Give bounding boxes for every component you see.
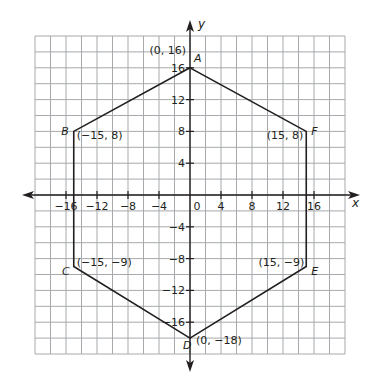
vertex-d-label: D	[183, 339, 191, 352]
vertex-f-coordinates: (15, 8)	[267, 129, 304, 142]
y-tick-label: −12	[162, 284, 185, 297]
x-tick-label: 0	[194, 200, 201, 213]
x-tick-label: −4	[151, 200, 167, 213]
x-axis-label: x	[351, 196, 360, 210]
y-axis-label: y	[197, 17, 206, 31]
vertex-f-label: F	[311, 125, 318, 138]
y-tick-label: 16	[171, 62, 185, 75]
x-tick-label: 12	[276, 200, 290, 213]
x-tick-label: 4	[218, 200, 225, 213]
vertex-c-coordinates: (−15, −9)	[77, 256, 132, 269]
y-tick-label: 12	[171, 94, 185, 107]
vertex-e-coordinates: (15, −9)	[258, 256, 304, 269]
axes	[22, 20, 360, 372]
x-tick-label: 8	[249, 200, 256, 213]
x-tick-label: −8	[120, 200, 136, 213]
coordinate-plane: −16−12−8−40481216 161284−4−8−12−16 A(0, …	[0, 0, 382, 389]
vertex-b-label: B	[61, 125, 69, 138]
vertex-a-label: A	[193, 52, 202, 65]
vertex-b-coordinates: (−15, 8)	[77, 129, 123, 142]
vertex-d-coordinates: (0, −18)	[196, 334, 242, 347]
y-tick-label: 8	[178, 125, 185, 138]
x-tick-label: −12	[85, 200, 108, 213]
vertex-c-label: C	[62, 265, 70, 278]
y-tick-label: −8	[169, 253, 185, 266]
vertex-e-label: E	[311, 265, 318, 278]
x-tick-label: 16	[307, 200, 321, 213]
vertex-a-coordinates: (0, 16)	[149, 44, 186, 57]
y-tick-label: −4	[169, 221, 185, 234]
y-tick-label: 4	[178, 157, 185, 170]
